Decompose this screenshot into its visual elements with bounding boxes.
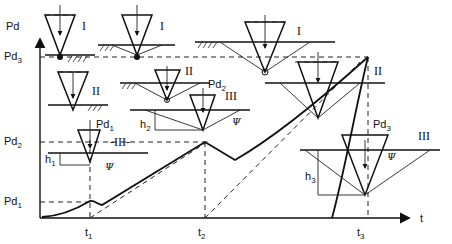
svg-text:Ψ: Ψ (105, 161, 115, 172)
stage-III-inset-h1: h1 Pd1 -III- Ψ (45, 118, 148, 172)
fracture-branch (332, 57, 368, 218)
svg-text:-III-: -III- (110, 135, 130, 149)
svg-text:h3: h3 (305, 170, 316, 185)
svg-text:I: I (160, 19, 164, 33)
indentation-diagram: Pd t Pd3 Pd2 Pd1 t1 t2 t3 I (0, 0, 452, 244)
axes: Pd t (6, 20, 423, 224)
svg-text:II: II (374, 64, 382, 78)
x-tick-t3: t3 (357, 226, 365, 241)
svg-text:I: I (297, 24, 301, 38)
x-axis-label: t (420, 212, 423, 224)
svg-text:II: II (92, 84, 100, 98)
y-tick-labels: Pd3 Pd2 Pd1 (4, 50, 22, 210)
x-tick-t1: t1 (85, 226, 93, 241)
svg-text:Pd2: Pd2 (208, 78, 226, 93)
svg-text:III: III (225, 89, 237, 103)
svg-text:Pd3: Pd3 (373, 118, 391, 133)
svg-text:h1: h1 (45, 153, 56, 168)
stage-III-inset-h2: h2 III Ψ (130, 88, 250, 133)
load-curve (42, 57, 368, 217)
x-tick-t2: t2 (198, 226, 206, 241)
reference-lines (40, 57, 368, 218)
y-axis-label: Pd (6, 20, 19, 32)
svg-text:Ψ: Ψ (387, 151, 397, 162)
y-tick-pd3: Pd3 (4, 50, 22, 65)
stage-II-inset-2: II Pd2 (120, 64, 226, 103)
svg-text:h2: h2 (140, 118, 151, 133)
y-tick-pd1: Pd1 (4, 195, 22, 210)
stage-I-inset-3: I (195, 15, 335, 75)
stage-III-inset-h3: h3 Pd3 III Ψ (300, 118, 440, 195)
svg-text:Ψ: Ψ (232, 116, 242, 127)
svg-text:II: II (185, 64, 193, 78)
stage-II-inset-1: II (48, 72, 108, 111)
stage-I-inset-1: I (45, 5, 95, 62)
x-tick-labels: t1 t2 t3 (85, 226, 365, 241)
svg-text:III: III (418, 129, 430, 143)
stage-I-inset-2: I (98, 5, 175, 60)
y-tick-pd2: Pd2 (4, 135, 22, 150)
svg-text:I: I (82, 19, 86, 33)
